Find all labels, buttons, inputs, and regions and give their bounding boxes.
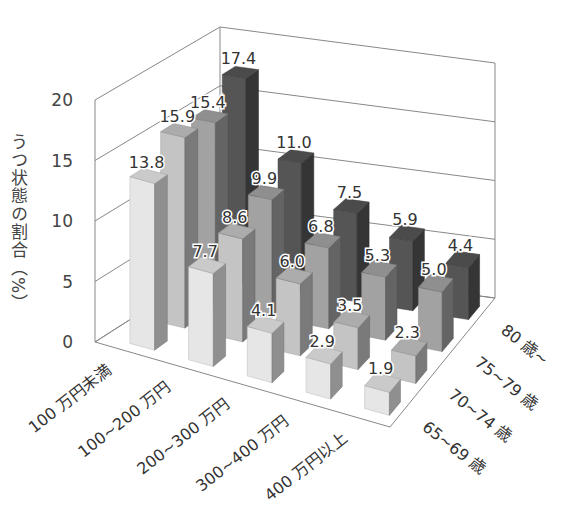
data-label: 17.4 [221, 49, 257, 68]
data-label: 6.8 [308, 217, 333, 236]
data-label: 1.9 [368, 359, 393, 378]
y-tick-label: 0 [62, 332, 73, 352]
data-label: 5.9 [392, 210, 417, 229]
data-label: 5.3 [365, 246, 390, 265]
bar [130, 168, 167, 350]
data-label: 8.6 [222, 208, 247, 227]
bar [189, 257, 226, 366]
y-axis-label: うつ状態の割合（%） [6, 133, 28, 312]
data-label: 13.8 [129, 153, 165, 172]
y-tick-label: 15 [51, 151, 73, 171]
data-label: 3.5 [337, 296, 362, 315]
y-axis-ticks: 05101520 [51, 90, 73, 352]
bar [365, 373, 401, 416]
y-tick-label: 5 [62, 272, 73, 292]
series-label: 80 歳~ [497, 320, 552, 369]
bars: 17.411.07.55.94.415.49.96.85.35.015.98.6… [129, 49, 480, 415]
y-tick-label: 10 [51, 211, 73, 231]
bar [392, 337, 427, 383]
bar [418, 275, 453, 352]
data-label: 2.9 [309, 332, 334, 351]
data-label: 6.0 [280, 252, 305, 271]
data-label: 15.4 [190, 93, 226, 112]
y-tick-label: 20 [51, 90, 73, 110]
data-label: 2.3 [395, 323, 420, 342]
data-label: 7.7 [192, 242, 217, 261]
bar [247, 316, 284, 383]
data-label: 11.0 [276, 133, 312, 152]
x-axis-categories: 100 万円未満100~200 万円200~300 万円300~400 万円40… [25, 361, 351, 505]
bar-chart-3d: 05101520 17.411.07.55.94.415.49.96.85.35… [0, 0, 561, 515]
data-label: 5.0 [421, 260, 446, 279]
bar [306, 345, 342, 399]
data-label: 9.9 [252, 169, 277, 188]
data-label: 7.5 [337, 183, 362, 202]
data-label: 4.1 [251, 301, 276, 320]
data-label: 15.9 [159, 107, 195, 126]
data-label: 4.4 [448, 236, 473, 255]
